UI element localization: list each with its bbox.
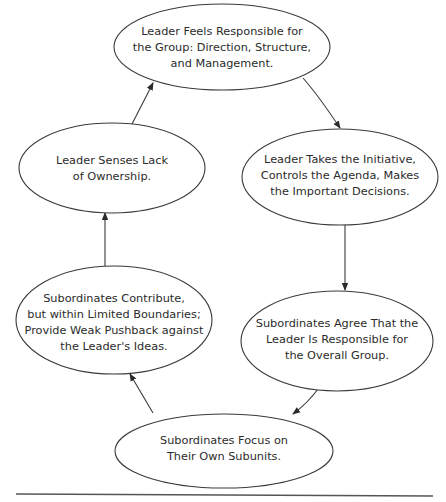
- bottom-rule-divider: [16, 494, 433, 496]
- node-text-line: Controls the Agenda, Makes: [261, 169, 419, 182]
- node-text-line: Subordinates Contribute,: [43, 292, 185, 305]
- node-text-line: Provide Weak Pushback against: [25, 324, 204, 337]
- svg-text:but within Limited Boundaries;: but within Limited Boundaries;: [27, 308, 200, 321]
- node-text-line: the Overall Group.: [285, 349, 389, 362]
- node-text-line: the Important Decisions.: [270, 185, 409, 198]
- edge-n1-to-n2: [303, 78, 340, 128]
- node-text-line: Leader Senses Lack: [56, 154, 168, 167]
- node-subordinates-agree: Subordinates Agree That the Leader Is Re…: [241, 291, 433, 391]
- node-text-line: Their Own Subunits.: [166, 450, 281, 463]
- node-text-line: but within Limited Boundaries;: [27, 308, 200, 321]
- svg-text:the Important Decisions.: the Important Decisions.: [270, 185, 409, 198]
- node-text-line: Subordinates Focus on: [160, 434, 288, 447]
- edge-n4-to-n5: [130, 374, 153, 413]
- node-text-line: Leader Feels Responsible for: [141, 25, 303, 38]
- node-text-line: Leader Takes the Initiative,: [264, 153, 416, 166]
- node-leader-senses-lack: Leader Senses Lack of Ownership.: [19, 123, 205, 213]
- node-leader-takes-initiative: Leader Takes the Initiative, Controls th…: [242, 129, 438, 225]
- node-leader-feels-responsible: Leader Feels Responsible for the Group: …: [114, 4, 330, 90]
- svg-text:Their Own Subunits.: Their Own Subunits.: [166, 450, 281, 463]
- node-text-line: the Leader's Ideas.: [60, 340, 167, 353]
- svg-text:Subordinates Agree That the: Subordinates Agree That the: [256, 317, 418, 330]
- node-text-line: Leader Is Responsible for: [266, 333, 408, 346]
- node-subordinates-contribute: Subordinates Contribute, but within Limi…: [16, 266, 212, 374]
- svg-text:Provide Weak Pushback against: Provide Weak Pushback against: [25, 324, 204, 337]
- edge-n6-to-n1: [132, 83, 153, 124]
- svg-text:the Overall Group.: the Overall Group.: [285, 349, 389, 362]
- node-text-line: Subordinates Agree That the: [256, 317, 418, 330]
- svg-text:the Group: Direction, Structur: the Group: Direction, Structure,: [133, 41, 311, 54]
- svg-text:Leader Feels Responsible for: Leader Feels Responsible for: [141, 25, 303, 38]
- svg-text:and Management.: and Management.: [171, 57, 274, 70]
- svg-text:Leader Takes the Initiative,: Leader Takes the Initiative,: [264, 153, 416, 166]
- svg-text:Leader Is Responsible for: Leader Is Responsible for: [266, 333, 408, 346]
- svg-text:Leader Senses Lack: Leader Senses Lack: [56, 154, 168, 167]
- edge-n3-to-n4: [293, 389, 318, 414]
- svg-text:Controls the Agenda, Makes: Controls the Agenda, Makes: [261, 169, 419, 182]
- node-text-line: of Ownership.: [73, 170, 151, 183]
- svg-text:Subordinates Focus on: Subordinates Focus on: [160, 434, 288, 447]
- node-text-line: and Management.: [171, 57, 274, 70]
- svg-text:the Leader's Ideas.: the Leader's Ideas.: [60, 340, 167, 353]
- svg-text:Subordinates Contribute,: Subordinates Contribute,: [43, 292, 185, 305]
- node-text-line: the Group: Direction, Structure,: [133, 41, 311, 54]
- node-subordinates-focus: Subordinates Focus on Their Own Subunits…: [115, 414, 333, 488]
- svg-text:of Ownership.: of Ownership.: [73, 170, 151, 183]
- leadership-cycle-diagram: Leader Feels Responsible for the Group: …: [0, 0, 446, 502]
